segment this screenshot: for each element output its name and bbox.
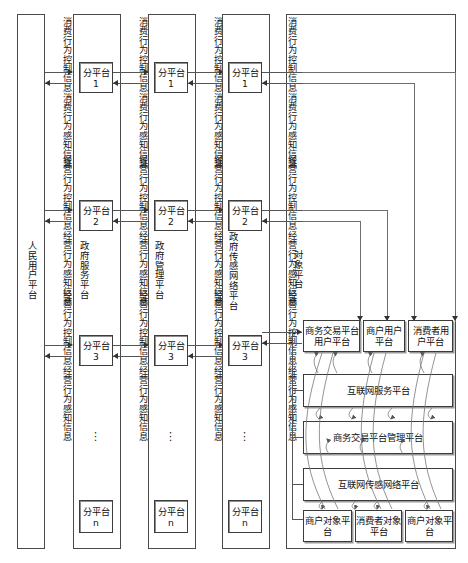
sub-platform-label: 分平台n (230, 506, 260, 528)
sub-platform-n-col4[interactable]: 分平台n (228, 500, 262, 533)
sub-platform-label: 分平台2 (230, 205, 260, 227)
routing-line (302, 210, 388, 211)
flow-arrow-head-left (188, 218, 193, 224)
box-label: 商户用户平台 (364, 325, 404, 348)
flow-arrow-line (113, 221, 148, 222)
flow-label-operate-control-3: 经营行为控制信息 (197, 155, 223, 230)
column-label-people-user-platform: 人民用户平台 (24, 241, 38, 300)
flow-arrow-head-left (45, 80, 50, 86)
flow-arrow-line (113, 356, 148, 357)
flow-arrow-head-left (262, 340, 267, 346)
flow-arrow-head-left (113, 218, 118, 224)
flow-arrow-head-right (297, 329, 302, 335)
flow-arrow-head-left (45, 353, 50, 359)
sub-platform-n-col3[interactable]: 分平台n (154, 500, 188, 533)
routing-line (455, 72, 456, 322)
sub-platform-2-col4[interactable]: 分平台2 (228, 200, 262, 231)
flow-label-operate-sense-2b: 经营行为感知信息 (122, 366, 148, 441)
box-label: 商务交易平台管理平台 (333, 432, 423, 444)
routing-line (387, 210, 388, 322)
sub-platform-3-col2[interactable]: 分平台3 (79, 335, 113, 366)
sub-platform-label: 分平台1 (156, 67, 186, 89)
flow-arrow-head-left (113, 80, 118, 86)
routing-line (302, 83, 415, 84)
box-label: 互联网传感网络平台 (338, 479, 419, 491)
box-label: 消费者对象平台 (356, 515, 401, 538)
diagram-canvas: 人民用户平台 消费行为控制信息 消费行为感知信息 经营行为控制信息 经营行为感知… (0, 0, 468, 563)
sub-platform-label: 分平台n (156, 506, 186, 528)
sub-platform-label: 分平台3 (230, 340, 260, 362)
routing-line (360, 221, 361, 322)
sub-platform-label: 分平台2 (156, 205, 186, 227)
flow-label-consume-control-3: 消费行为控制信息 (197, 17, 223, 92)
flow-label-operate-control-2: 经营行为控制信息 (122, 155, 148, 230)
object-platform-spine (292, 330, 293, 520)
box-consumer-user-platform[interactable]: 消费者用户平台 (408, 320, 453, 352)
flow-arrow-line (188, 356, 223, 357)
flow-arrow-line (113, 83, 148, 84)
flow-arrow-line (262, 332, 302, 333)
flow-arrow-line (113, 345, 148, 346)
flow-arrow-line (188, 345, 223, 346)
sub-platform-3-col4[interactable]: 分平台3 (228, 335, 262, 366)
box-label: 商户对象平台 (304, 515, 351, 538)
flow-label-operate-sense-1b: 经营行为感知信息 (46, 366, 72, 441)
flow-arrow-line (113, 210, 148, 211)
box-business-transaction-management-platform[interactable]: 商务交易平台管理平台 (303, 421, 453, 454)
flow-arrow-line (188, 210, 223, 211)
flow-arrow-line (188, 221, 223, 222)
sub-platform-label: 分平台2 (81, 205, 111, 227)
flow-arrow-line (188, 83, 223, 84)
box-label: 互联网服务平台 (347, 385, 410, 397)
sub-platform-label: 分平台3 (81, 340, 111, 362)
box-label: 商户对象平台 (406, 515, 452, 538)
sub-platform-3-col3[interactable]: 分平台3 (154, 335, 188, 366)
sub-platform-1-col2[interactable]: 分平台1 (79, 62, 113, 93)
flow-arrow-line (113, 72, 148, 73)
sub-platform-label: 分平台1 (81, 67, 111, 89)
flow-arrow-head-left (262, 80, 267, 86)
routing-line (302, 72, 456, 73)
sub-platform-label: 分平台3 (156, 340, 186, 362)
flow-arrow-line (188, 72, 223, 73)
ellipsis-col4: ⋮ (242, 430, 247, 444)
box-merchant-user-platform[interactable]: 商户用户平台 (363, 320, 405, 352)
flow-label-operate-control-3b: 经营行为控制信息 (197, 290, 223, 365)
box-consumer-object-platform[interactable]: 消费者对象平台 (355, 510, 402, 542)
column-label-object-platform: 对象平台 (290, 250, 304, 289)
flow-arrow-head-left (262, 218, 267, 224)
routing-line (414, 83, 415, 322)
flow-label-consume-control-2: 消费行为控制信息 (122, 17, 148, 92)
box-merchant-object-platform-1[interactable]: 商户对象平台 (303, 510, 352, 542)
flow-arrow-head-left (113, 353, 118, 359)
column-label-government-sensor-network-platform: 政府传感网络平台 (225, 232, 239, 310)
sub-platform-n-col2[interactable]: 分平台n (79, 500, 113, 533)
flow-arrow-head-left (188, 80, 193, 86)
sub-platform-2-col3[interactable]: 分平台2 (154, 200, 188, 231)
ellipsis-col3: ⋮ (168, 430, 173, 444)
sub-platform-1-col4[interactable]: 分平台1 (228, 62, 262, 93)
box-internet-sensor-network-platform[interactable]: 互联网传感网络平台 (303, 468, 453, 501)
column-label-government-service-platform: 政府服务平台 (76, 241, 90, 300)
sub-platform-label: 分平台n (81, 506, 111, 528)
box-label: 商务交易平台用户平台 (304, 325, 359, 348)
box-merchant-object-platform-2[interactable]: 商户对象平台 (405, 510, 453, 542)
ellipsis-col2: ⋮ (93, 430, 98, 444)
column-label-government-management-platform: 政府管理平台 (151, 241, 165, 300)
sub-platform-label: 分平台1 (230, 67, 260, 89)
sub-platform-2-col2[interactable]: 分平台2 (79, 200, 113, 231)
routing-line (302, 221, 361, 222)
flow-arrow-head-left (45, 218, 50, 224)
flow-arrow-head-left (188, 353, 193, 359)
box-business-transaction-user-platform[interactable]: 商务交易平台用户平台 (303, 320, 360, 352)
flow-label-operate-sense-3b: 经营行为感知信息 (197, 366, 223, 441)
box-internet-service-platform[interactable]: 互联网服务平台 (303, 374, 453, 407)
sub-platform-1-col3[interactable]: 分平台1 (154, 62, 188, 93)
flow-arrow-line (262, 343, 302, 344)
box-label: 消费者用户平台 (409, 325, 452, 348)
flow-label-operate-control-2b: 经营行为控制信息 (122, 290, 148, 365)
